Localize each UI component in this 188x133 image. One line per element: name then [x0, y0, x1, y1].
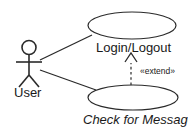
use-case-diagram-canvas: User Login/Logout «extend» Check for Mes…	[0, 0, 188, 133]
use-case-ellipse-check-for-messages[interactable]	[88, 85, 178, 110]
association-line-user-check	[40, 70, 96, 90]
use-case-ellipse-login-logout[interactable]	[88, 12, 176, 39]
actor-label: User	[14, 85, 42, 100]
actor-figure-icon[interactable]	[16, 41, 42, 88]
extend-stereotype-label: «extend»	[140, 66, 175, 76]
association-line-user-login	[40, 35, 92, 60]
use-case-label-check-for-messages: Check for Messages	[83, 112, 188, 127]
use-case-label-login-logout: Login/Logout	[96, 40, 172, 55]
actor-head-icon	[22, 41, 36, 55]
